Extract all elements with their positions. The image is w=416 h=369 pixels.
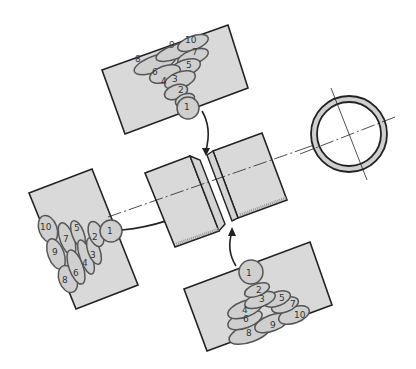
top-to-center-arrow [202,111,208,150]
svg-text:1: 1 [246,268,252,278]
svg-text:8: 8 [135,54,141,64]
svg-text:6: 6 [152,67,158,77]
weld-sequence-diagram: 8 9 10 6 7 4 5 3 2 1 10 [0,0,416,369]
svg-text:9: 9 [169,40,175,50]
arrowhead-icon [228,227,236,236]
top-weld-sequence: 8 9 10 6 7 4 5 3 2 1 [102,25,248,156]
svg-text:3: 3 [172,74,178,84]
svg-text:10: 10 [294,310,306,320]
svg-text:10: 10 [185,35,197,45]
svg-text:9: 9 [52,247,58,257]
svg-text:5: 5 [74,223,80,233]
svg-text:1: 1 [184,102,190,112]
bottom-weld-sequence: 1 2 3 4 5 6 7 8 9 10 [184,227,332,351]
svg-text:7: 7 [192,47,198,57]
svg-text:2: 2 [178,85,184,95]
svg-text:7: 7 [290,299,296,309]
svg-text:8: 8 [62,275,68,285]
pipe-cross-section [300,88,395,180]
svg-text:6: 6 [73,268,79,278]
bottom-to-center-arrow [230,232,236,266]
svg-text:6: 6 [243,314,249,324]
svg-text:1: 1 [107,226,113,236]
svg-text:4: 4 [82,258,88,268]
svg-text:5: 5 [186,60,192,70]
svg-text:10: 10 [40,222,52,232]
svg-text:3: 3 [259,294,265,304]
svg-text:7: 7 [63,234,69,244]
right-pipe-block [213,133,287,218]
svg-text:2: 2 [92,232,98,242]
svg-text:3: 3 [90,250,96,260]
svg-text:8: 8 [246,328,252,338]
svg-text:5: 5 [279,293,285,303]
svg-text:9: 9 [270,320,276,330]
svg-text:4: 4 [161,76,167,86]
